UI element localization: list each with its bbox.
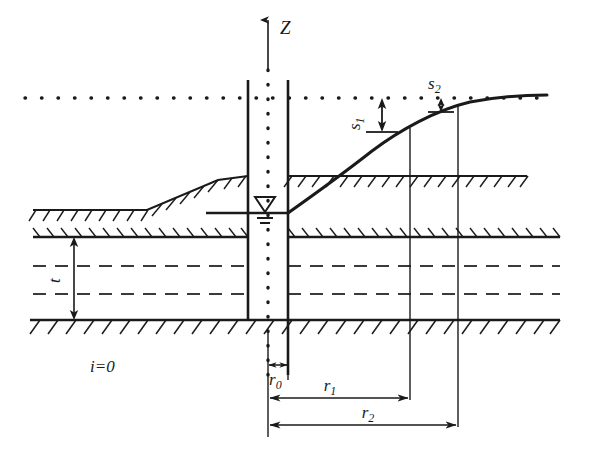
z-axis-label: Z (280, 17, 291, 38)
diagram-canvas: t s1 s2 (0, 0, 597, 466)
gradient-label: i=0 (90, 357, 115, 376)
hydrogeology-diagram: t s1 s2 (0, 0, 597, 466)
canvas-background (0, 0, 597, 466)
gradient-annotation: i=0 (90, 357, 115, 376)
